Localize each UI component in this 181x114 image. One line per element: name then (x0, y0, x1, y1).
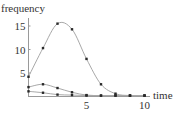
data-point (27, 86, 29, 88)
data-point (56, 87, 58, 89)
data-point (100, 83, 102, 85)
y-tick-label: 15 (15, 20, 27, 32)
data-point (42, 83, 44, 85)
data-point (56, 22, 58, 24)
data-point (56, 93, 58, 95)
y-tick-label: 5 (20, 67, 26, 79)
data-point (129, 94, 131, 96)
data-point (85, 94, 87, 96)
data-point (114, 94, 116, 96)
data-point (71, 91, 73, 93)
data-point (143, 94, 145, 96)
x-axis-label: time (153, 89, 173, 101)
x-tick-label: 10 (139, 99, 151, 111)
data-point (27, 90, 29, 92)
y-tick-label: 10 (15, 44, 27, 56)
data-point (42, 47, 44, 49)
y-axis-label: frequency (1, 2, 45, 14)
data-point (71, 94, 73, 96)
x-tick-label: 5 (84, 99, 90, 111)
data-point (27, 76, 29, 78)
data-point (85, 58, 87, 60)
data-point (71, 28, 73, 30)
data-points (27, 22, 145, 96)
data-point (42, 92, 44, 94)
chart: frequency time 51015 510 (0, 0, 181, 114)
data-point (100, 94, 102, 96)
